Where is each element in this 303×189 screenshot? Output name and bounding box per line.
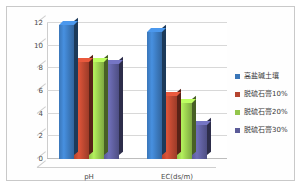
legend-swatch-icon [235, 110, 240, 115]
x-tick-label: EC(ds/m) [161, 173, 193, 181]
legend-item[interactable]: 脱硫石膏10% [235, 89, 301, 99]
x-tick-label: pH [84, 173, 94, 181]
plot-area: 024681012 pHEC(ds/m) [37, 23, 227, 168]
bar-group [59, 23, 119, 159]
y-tick-label: 12 [34, 19, 43, 27]
legend-swatch-icon [235, 92, 240, 97]
bar-face [147, 32, 162, 159]
bar[interactable] [59, 25, 74, 159]
bar-series-layer [47, 23, 227, 159]
bar-side [177, 88, 181, 155]
legend-item-label: 脱硫石膏30% [244, 125, 288, 135]
bar-side [89, 54, 93, 155]
bar[interactable] [147, 32, 162, 159]
bar-side [162, 25, 166, 155]
y-tick-label: 0 [39, 155, 43, 163]
legend-swatch-icon [235, 128, 240, 133]
y-tick-label: 6 [39, 87, 43, 95]
legend-item-label: 脱硫石膏20% [244, 107, 288, 117]
bar-side [74, 18, 78, 155]
chart-frame: 024681012 pHEC(ds/m) 高盐碱土壤脱硫石膏10%脱硫石膏20%… [6, 6, 295, 181]
y-tick-label: 10 [34, 42, 43, 50]
legend-item-label: 高盐碱土壤 [244, 71, 279, 81]
legend-item[interactable]: 高盐碱土壤 [235, 71, 301, 81]
bar-face [59, 25, 74, 159]
bar-side [119, 57, 123, 155]
y-tick-label: 8 [39, 64, 43, 72]
legend-item[interactable]: 脱硫石膏20% [235, 107, 301, 117]
bar-side [104, 54, 108, 155]
y-tick-label: 2 [39, 132, 43, 140]
bar-side [192, 96, 196, 155]
y-tick-label: 4 [39, 110, 43, 118]
chart-legend: 高盐碱土壤脱硫石膏10%脱硫石膏20%脱硫石膏30% [235, 71, 301, 143]
legend-item-label: 脱硫石膏10% [244, 89, 288, 99]
legend-item[interactable]: 脱硫石膏30% [235, 125, 301, 135]
legend-swatch-icon [235, 74, 240, 79]
bar-group [147, 23, 207, 159]
floor-front-edge [37, 167, 216, 168]
